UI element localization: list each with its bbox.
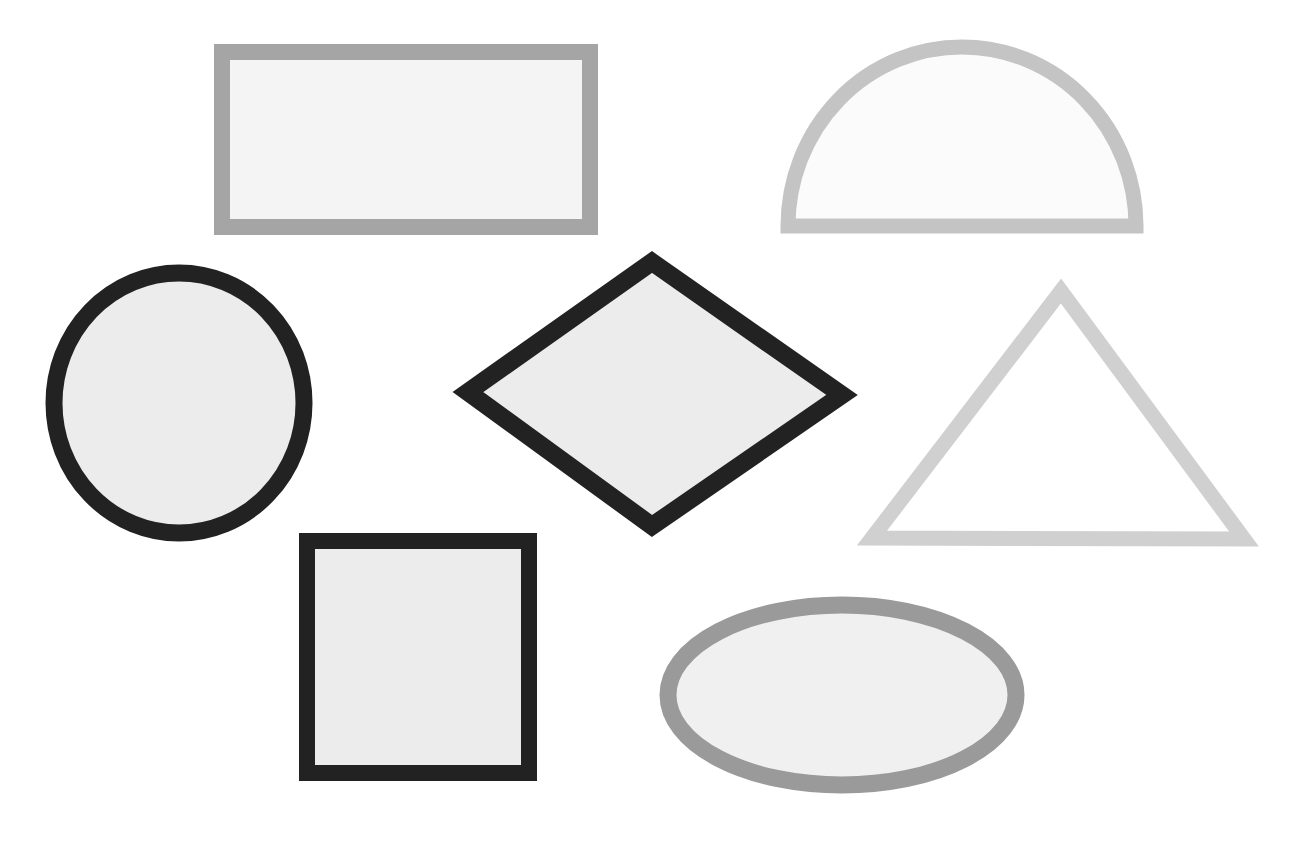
triangle-shape	[872, 291, 1244, 539]
oval-shape	[668, 605, 1016, 785]
diamond-shape	[468, 262, 842, 526]
circle-shape	[54, 273, 304, 533]
square-shape	[307, 541, 529, 773]
shapes-canvas	[0, 0, 1315, 847]
rectangle-shape	[222, 52, 590, 227]
semicircle-shape	[788, 47, 1136, 226]
